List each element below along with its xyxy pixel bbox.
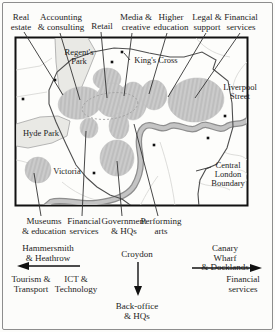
south-arrow-head — [134, 286, 142, 296]
london-clusters-figure: Real estate Accounting & consulting Reta… — [0, 0, 275, 332]
cluster-small-west — [80, 118, 98, 138]
label-media: Media & creative — [120, 13, 152, 32]
label-kings-cross: King's Cross — [134, 56, 177, 65]
label-hyde-park: Hyde Park — [23, 129, 59, 138]
west-arrow-head — [17, 262, 29, 270]
label-victoria: Victoria — [53, 167, 80, 176]
label-financial-east: Financial services — [226, 275, 260, 294]
label-museums: Museums & education — [22, 217, 66, 236]
label-higher-ed: Higher education — [154, 13, 189, 32]
label-real-estate: Real estate — [11, 13, 32, 32]
east-arrow-head — [250, 264, 262, 272]
label-canary-wharf: Canary Wharf & Docklands — [200, 244, 250, 273]
label-financial-top: Financial services — [224, 13, 258, 32]
label-tourism-transport: Tourism & Transport — [11, 275, 50, 294]
label-legal: Legal & support — [192, 13, 222, 32]
cluster-southken — [25, 157, 51, 183]
label-performing-arts: Performing arts — [141, 217, 182, 236]
cluster-small-mid — [109, 113, 129, 139]
label-ict-technology: ICT & Technology — [55, 275, 97, 294]
label-back-office: Back-office & HQs — [116, 302, 158, 321]
label-regents-park: Regent's Park — [65, 48, 94, 66]
label-accounting: Accounting & consulting — [38, 13, 85, 32]
label-central-boundary: Central London Boundary — [211, 161, 245, 188]
cluster-holborn — [141, 80, 167, 110]
label-retail: Retail — [91, 22, 113, 32]
cluster-westminster — [100, 140, 134, 176]
label-liverpool-street: Liverpool Street — [223, 83, 257, 101]
label-hammersmith-heathrow: Hammersmith & Heathrow — [22, 244, 74, 263]
label-financial-bottom: Financial services — [67, 217, 101, 236]
label-croydon: Croydon — [121, 250, 153, 260]
